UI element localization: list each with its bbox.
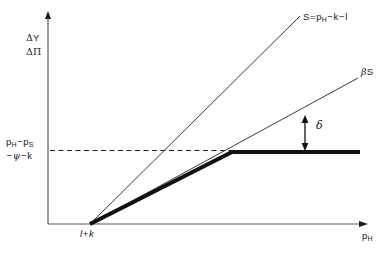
x-axis-label: pH [362, 230, 373, 245]
delta-annotation-label: δ [316, 119, 323, 132]
y-tick-label-line1: pH−pS [6, 136, 33, 150]
curve-label-s: S=pH−k−l [303, 11, 348, 26]
y-axis-label-line2: ΔΠ [26, 46, 42, 60]
x-axis-arrowhead [359, 221, 368, 227]
s-line [90, 16, 300, 224]
delta-gap-arrow [302, 115, 309, 151]
y-tick-label-line2: −ψ−k [6, 150, 33, 164]
figure-canvas [0, 0, 391, 258]
curve-label-beta-s: βS [361, 66, 373, 78]
x-tick-label-origin: l+k [80, 228, 94, 240]
y-axis-label-line1: ΔY [26, 32, 42, 46]
y-axis-label: ΔY ΔΠ [26, 32, 42, 60]
payoff-kinked-line [90, 152, 360, 224]
y-axis-arrowhead [45, 11, 51, 19]
figure-container: ΔY ΔΠ pH−pS −ψ−k l+k pH S=pH−k−l βS δ [0, 0, 391, 258]
y-tick-label: pH−pS −ψ−k [6, 136, 33, 164]
